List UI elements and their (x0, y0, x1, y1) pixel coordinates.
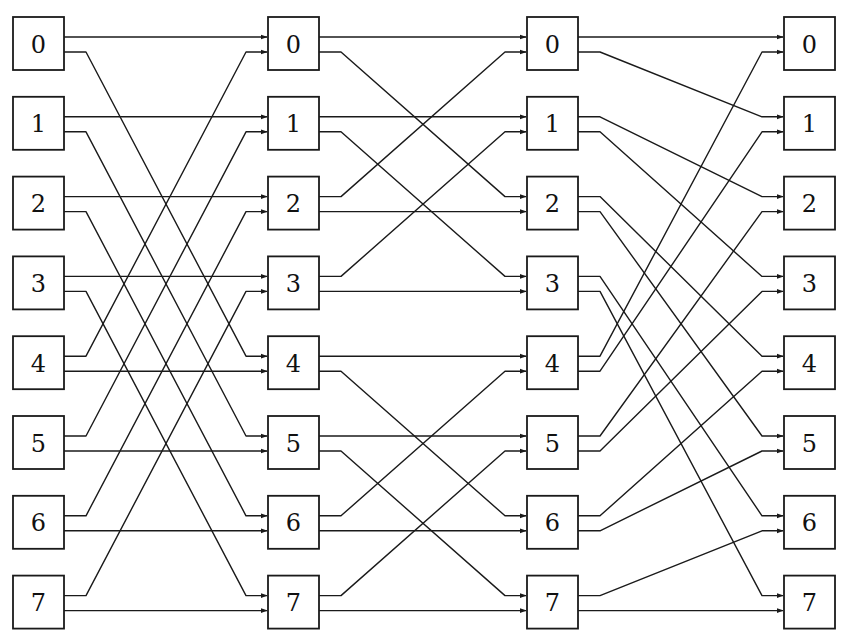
node-label: 2 (802, 190, 817, 218)
edge-stage-1-2-to-stage-2-0 (319, 52, 526, 197)
node-stage-1-1: 1 (268, 97, 319, 150)
node-label: 1 (286, 110, 301, 138)
node-stage-0-5: 5 (13, 416, 64, 469)
node-stage-3-2: 2 (784, 177, 835, 230)
node-stage-3-5: 5 (784, 416, 835, 469)
edge-stage-2-6-to-stage-3-4 (578, 371, 783, 516)
edge-stage-2-7-to-stage-3-6 (578, 531, 783, 596)
node-stage-0-4: 4 (13, 336, 64, 389)
edge-stage-2-4-to-stage-3-0 (578, 52, 783, 356)
node-stage-3-3: 3 (784, 256, 835, 309)
edge-stage-0-5-to-stage-1-1 (64, 132, 267, 436)
node-label: 6 (31, 509, 46, 537)
node-label: 3 (802, 270, 817, 298)
node-label: 2 (31, 190, 46, 218)
node-label: 7 (802, 589, 817, 617)
node-stage-2-0: 0 (527, 17, 578, 70)
node-stage-0-6: 6 (13, 496, 64, 549)
node-label: 1 (802, 110, 817, 138)
edge-stage-2-1-to-stage-3-2 (578, 117, 783, 197)
node-label: 0 (802, 31, 817, 59)
node-label: 5 (31, 430, 46, 458)
node-label: 0 (31, 31, 46, 59)
edge-stage-2-2-to-stage-3-4 (578, 197, 783, 357)
node-stage-0-3: 3 (13, 256, 64, 309)
node-stage-2-3: 3 (527, 256, 578, 309)
node-stage-1-5: 5 (268, 416, 319, 469)
node-label: 4 (286, 350, 301, 378)
node-stage-2-5: 5 (527, 416, 578, 469)
node-label: 7 (31, 589, 46, 617)
node-stage-3-0: 0 (784, 17, 835, 70)
edge-stage-2-0-to-stage-3-1 (578, 52, 783, 117)
node-label: 4 (545, 350, 560, 378)
node-label: 6 (545, 509, 560, 537)
node-label: 3 (545, 270, 560, 298)
edge-stage-1-6-to-stage-2-4 (319, 371, 526, 516)
node-label: 3 (286, 270, 301, 298)
node-label: 0 (286, 31, 301, 59)
node-label: 7 (286, 589, 301, 617)
node-label: 2 (545, 190, 560, 218)
node-stage-0-1: 1 (13, 97, 64, 150)
node-stage-2-6: 6 (527, 496, 578, 549)
node-label: 6 (286, 509, 301, 537)
node-stage-2-1: 1 (527, 97, 578, 150)
node-stage-1-2: 2 (268, 177, 319, 230)
node-stage-0-7: 7 (13, 576, 64, 629)
node-label: 6 (802, 509, 817, 537)
node-stage-3-7: 7 (784, 576, 835, 629)
node-stage-1-6: 6 (268, 496, 319, 549)
node-label: 5 (286, 430, 301, 458)
node-label: 2 (286, 190, 301, 218)
connection-layer (64, 37, 783, 611)
node-label: 4 (31, 350, 46, 378)
node-stage-3-4: 4 (784, 336, 835, 389)
node-stage-1-4: 4 (268, 336, 319, 389)
node-label: 7 (545, 589, 560, 617)
node-stage-2-7: 7 (527, 576, 578, 629)
edge-stage-1-7-to-stage-2-5 (319, 451, 526, 596)
node-stage-1-7: 7 (268, 576, 319, 629)
node-label: 3 (31, 270, 46, 298)
edge-stage-1-3-to-stage-2-1 (319, 132, 526, 277)
edge-stage-2-4-to-stage-3-1 (578, 132, 783, 371)
network-diagram: 01234567012345670123456701234567 (0, 0, 851, 642)
node-stage-3-6: 6 (784, 496, 835, 549)
node-stage-0-0: 0 (13, 17, 64, 70)
node-label: 5 (545, 430, 560, 458)
node-stage-3-1: 1 (784, 97, 835, 150)
edge-stage-2-5-to-stage-3-3 (578, 291, 783, 451)
node-label: 5 (802, 430, 817, 458)
node-label: 0 (545, 31, 560, 59)
edge-stage-2-3-to-stage-3-6 (578, 276, 783, 515)
node-layer: 01234567012345670123456701234567 (13, 17, 835, 629)
node-label: 1 (545, 110, 560, 138)
node-stage-2-4: 4 (527, 336, 578, 389)
edge-stage-0-6-to-stage-1-2 (64, 212, 267, 516)
node-stage-0-2: 2 (13, 177, 64, 230)
edge-stage-2-6-to-stage-3-5 (578, 451, 783, 531)
node-stage-1-0: 0 (268, 17, 319, 70)
node-stage-1-3: 3 (268, 256, 319, 309)
node-stage-2-2: 2 (527, 177, 578, 230)
edge-stage-2-5-to-stage-3-2 (578, 212, 783, 436)
node-label: 1 (31, 110, 46, 138)
node-label: 4 (802, 350, 817, 378)
